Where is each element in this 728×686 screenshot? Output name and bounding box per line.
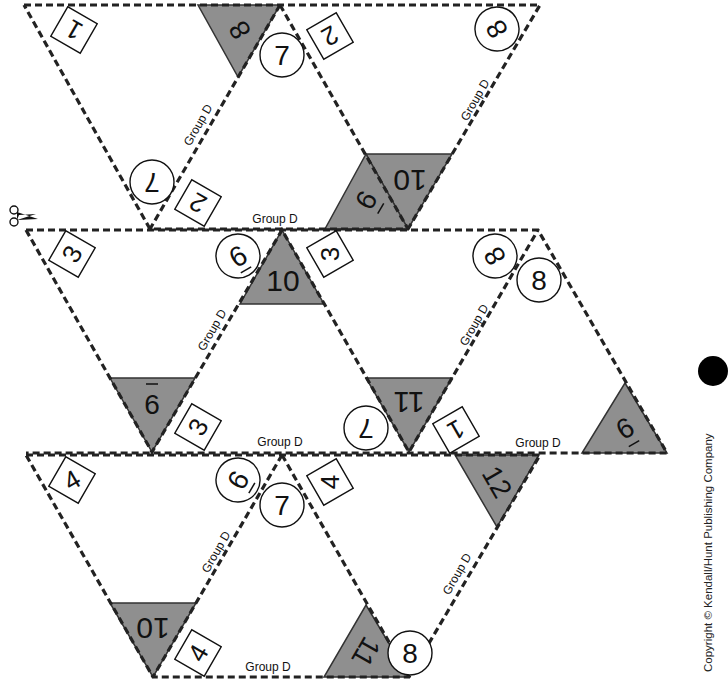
number-square: 3 [175,404,221,450]
number-circle: 7 [130,160,174,204]
svg-text:8: 8 [531,265,547,296]
number-circle: 7 [344,406,388,450]
triangle-number: 6 [144,384,160,420]
number-square: 4 [175,630,221,676]
copyright-notice: Copyright © Kendall/Hunt Publishing Comp… [702,433,714,672]
registration-dot [698,356,728,386]
svg-text:7: 7 [274,40,290,71]
triangle-number: 10 [393,164,426,197]
group-label: Group D [252,212,298,226]
svg-text:8: 8 [402,638,418,669]
number-circle: 9 [208,450,268,510]
triangle-number: 11 [393,386,424,419]
scissors-icon [10,206,38,226]
strip-1: 1 2 2 7 7 8 8 10 9 Group D [24,0,540,229]
number-square: 1 [51,7,97,53]
number-circle: 7 [260,33,304,77]
number-circle: 8 [388,631,432,675]
number-square: 2 [307,13,353,59]
number-square: 4 [49,457,95,503]
number-square: 3 [49,231,95,277]
number-square: 4 [307,459,353,505]
strip-3: 4 4 4 9 7 8 12 10 11 Group D Group D [26,450,540,677]
number-circle: 8 [465,226,525,286]
svg-text:7: 7 [274,490,290,521]
number-square: 1 [433,407,479,453]
svg-text:7: 7 [144,167,160,198]
number-circle: 8 [517,258,561,302]
triangle-number: 10 [266,264,299,297]
number-circle: 8 [467,0,527,59]
svg-text:7: 7 [358,413,374,444]
svg-text:4: 4 [315,475,345,489]
group-label: Group D [515,436,561,450]
group-label: Group D [245,660,291,674]
triangle-number: 10 [136,612,169,645]
strip-2: 3 3 3 1 9 8 8 7 [26,226,667,453]
number-circle: 7 [260,483,304,527]
number-square: 3 [307,231,353,277]
number-square: 2 [175,180,221,226]
svg-text:3: 3 [315,247,345,261]
svg-text:6: 6 [144,389,160,420]
group-label: Group D [199,529,234,576]
group-label: Group D [257,435,303,449]
